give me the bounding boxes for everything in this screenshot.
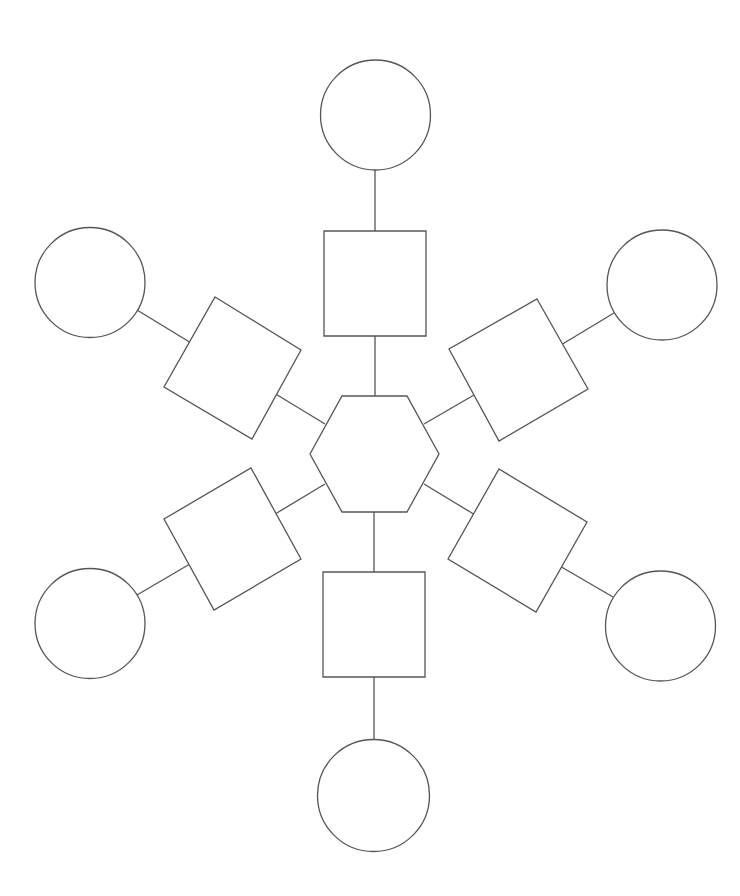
upper-right-square-box[interactable] [449, 299, 588, 441]
upper-left-connector-inner-line [277, 395, 326, 425]
upper-left-connector-outer-line [137, 310, 190, 342]
lower-right-connector-inner-line [424, 484, 474, 514]
upper-right-connector-outer-line [563, 313, 615, 344]
upper-left-square-box[interactable] [164, 297, 301, 439]
top-circle-node[interactable] [321, 60, 431, 170]
lower-left-connector-inner-line [276, 484, 325, 514]
shapes-layer [35, 60, 717, 852]
lower-left-square-box[interactable] [164, 468, 301, 610]
snowflake-diagram [0, 0, 740, 896]
lower-left-circle-node[interactable] [35, 569, 145, 679]
upper-right-connector-inner-line [424, 395, 474, 424]
top-square-box[interactable] [324, 231, 426, 336]
lower-right-connector-outer-line [562, 567, 614, 597]
bottom-square-box[interactable] [323, 572, 425, 677]
center-hexagon[interactable] [310, 396, 439, 512]
lower-right-circle-node[interactable] [606, 571, 716, 681]
bottom-circle-node[interactable] [318, 740, 430, 852]
upper-right-circle-node[interactable] [607, 230, 717, 340]
lower-right-square-box[interactable] [448, 469, 587, 612]
upper-left-circle-node[interactable] [35, 228, 145, 338]
lower-left-connector-outer-line [137, 565, 189, 596]
